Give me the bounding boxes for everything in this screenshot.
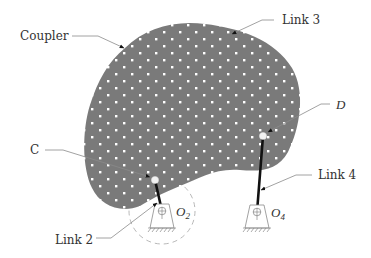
coupler-body bbox=[84, 23, 300, 209]
label-link2: Link 2 bbox=[55, 233, 93, 247]
label-link3: Link 3 bbox=[282, 13, 320, 27]
label-link4: Link 4 bbox=[318, 168, 357, 182]
label-o4: O4 bbox=[271, 205, 285, 222]
label-coupler: Coupler bbox=[20, 29, 69, 43]
joint-d bbox=[259, 132, 266, 139]
label-o2-sub: 2 bbox=[185, 211, 190, 221]
label-c: C bbox=[30, 143, 39, 157]
leader-coupler bbox=[72, 36, 124, 48]
label-o2: O2 bbox=[176, 204, 190, 221]
ground-support-o4 bbox=[243, 205, 271, 232]
ground-support-o2 bbox=[148, 204, 176, 232]
label-o4-sub: 4 bbox=[280, 212, 285, 222]
fourbar-linkage-diagram: Coupler Link 3 D C Link 4 Link 2 O2 O4 bbox=[0, 0, 371, 258]
label-d: D bbox=[335, 97, 346, 112]
leader-link4 bbox=[261, 175, 312, 190]
joint-c bbox=[151, 176, 158, 183]
